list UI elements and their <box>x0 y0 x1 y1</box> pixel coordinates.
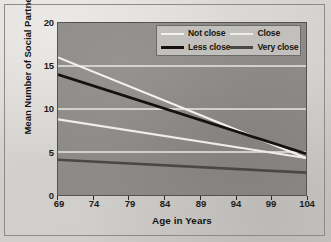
x-tick-label-99: 99 <box>254 199 288 209</box>
series-lines-group <box>58 57 306 172</box>
legend-entry-less-close[interactable]: Less close <box>161 43 230 52</box>
x-tickmark-104 <box>307 196 308 200</box>
x-tick-label-104: 104 <box>290 199 324 209</box>
x-tick-label-89: 89 <box>184 199 218 209</box>
figure-root: 20 15 10 5 0 Mean Number of Social Partn… <box>0 0 331 242</box>
series-line-very-close <box>58 160 306 173</box>
legend-swatch-very-close <box>230 46 253 49</box>
legend-entry-not-close[interactable]: Not close <box>161 29 230 38</box>
x-tick-label-94: 94 <box>219 199 253 209</box>
x-tickmark-94 <box>236 196 237 200</box>
x-tickmark-89 <box>200 196 201 200</box>
legend-label-very-close: Very close <box>257 43 298 52</box>
y-tick-label-5: 5 <box>16 148 54 158</box>
legend-label-not-close: Not close <box>188 29 225 38</box>
legend-label-less-close: Less close <box>188 43 230 52</box>
x-axis-title: Age in Years <box>57 215 307 226</box>
x-tickmark-74 <box>93 196 94 200</box>
legend-swatch-less-close <box>161 46 184 49</box>
x-axis-tickmarks <box>57 196 307 200</box>
legend-entry-close[interactable]: Close <box>230 29 298 38</box>
x-tickmark-99 <box>271 196 272 200</box>
legend-entry-very-close[interactable]: Very close <box>230 43 298 52</box>
x-tickmark-84 <box>164 196 165 200</box>
x-tick-label-74: 74 <box>77 199 111 209</box>
x-tick-label-79: 79 <box>113 199 147 209</box>
series-line-less-close <box>58 75 306 154</box>
x-tickmark-79 <box>128 196 129 200</box>
legend-swatch-close <box>230 33 253 35</box>
x-tickmark-69 <box>57 196 58 200</box>
x-tick-label-84: 84 <box>148 199 182 209</box>
x-tick-label-69: 69 <box>42 199 76 209</box>
legend-swatch-not-close <box>161 33 184 35</box>
y-axis-title: Mean Number of Social Partners <box>22 0 33 147</box>
chart-legend: Not close Close Less close Very close <box>156 25 301 56</box>
legend-label-close: Close <box>257 29 280 38</box>
